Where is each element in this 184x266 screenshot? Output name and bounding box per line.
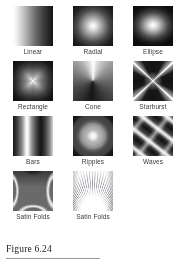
gradient-swatch-cell-satin-folds-b: Satin Folds xyxy=(73,171,133,226)
gradient-swatch-cell-cone: Cone xyxy=(73,61,133,116)
figure-caption: Figure 6.24 xyxy=(6,244,52,254)
rectangle-gradient-swatch xyxy=(13,61,53,101)
linear-gradient-fill xyxy=(13,6,53,46)
ellipse-gradient-swatch xyxy=(133,6,173,46)
gradient-swatch-label: Bars xyxy=(6,156,60,167)
gradient-swatch-cell-ripples: Ripples xyxy=(73,116,133,171)
starburst-gradient-swatch xyxy=(133,61,173,101)
satin-folds-a-gradient-swatch xyxy=(13,171,53,211)
gradient-swatch-label: Ellipse xyxy=(126,46,180,57)
gradient-swatch-label: Ripples xyxy=(66,156,120,167)
gradient-swatch-cell-bars: Bars xyxy=(13,116,73,171)
rectangle-gradient-fill xyxy=(13,61,53,101)
satin-folds-b-gradient-swatch xyxy=(73,171,113,211)
gradient-swatch-label: Waves xyxy=(126,156,180,167)
waves-gradient-fill xyxy=(133,116,173,156)
gradient-swatch-cell-radial: Radial xyxy=(73,6,133,61)
cone-gradient-fill xyxy=(73,61,113,101)
satin-folds-a-gradient-fill xyxy=(13,171,53,211)
gradient-swatch-cell-empty xyxy=(133,171,184,226)
gradient-swatch-label: Radial xyxy=(66,46,120,57)
starburst-center-glow xyxy=(133,61,173,101)
ripples-gradient-fill xyxy=(73,116,113,156)
gradient-swatch-cell-starburst: Starburst xyxy=(133,61,184,116)
figure-caption-rule xyxy=(6,258,100,259)
gradient-swatch-label: Satin Folds xyxy=(66,211,120,222)
gradient-swatch-cell-satin-folds-a: Satin Folds xyxy=(13,171,73,226)
gradient-swatch-label: Starburst xyxy=(126,101,180,112)
ripples-gradient-swatch xyxy=(73,116,113,156)
gradient-swatch-label: Linear xyxy=(6,46,60,57)
satin-folds-b-edge-shading xyxy=(73,171,113,211)
gradient-swatch-cell-ellipse: Ellipse xyxy=(133,6,184,61)
ellipse-gradient-fill xyxy=(133,6,173,46)
radial-gradient-fill xyxy=(73,6,113,46)
gradient-swatch-grid: Linear Radial Ellipse Rectangle Cone xyxy=(13,0,184,226)
gradient-styles-figure: Linear Radial Ellipse Rectangle Cone xyxy=(0,0,184,266)
gradient-swatch-label: Satin Folds xyxy=(6,211,60,222)
gradient-swatch-cell-waves: Waves xyxy=(133,116,184,171)
gradient-swatch-label: Rectangle xyxy=(6,101,60,112)
cone-gradient-swatch xyxy=(73,61,113,101)
bars-gradient-fill xyxy=(13,116,53,156)
bars-gradient-swatch xyxy=(13,116,53,156)
gradient-swatch-cell-rectangle: Rectangle xyxy=(13,61,73,116)
gradient-swatch-cell-linear: Linear xyxy=(13,6,73,61)
gradient-swatch-label: Cone xyxy=(66,101,120,112)
linear-gradient-swatch xyxy=(13,6,53,46)
radial-gradient-swatch xyxy=(73,6,113,46)
waves-gradient-swatch xyxy=(133,116,173,156)
